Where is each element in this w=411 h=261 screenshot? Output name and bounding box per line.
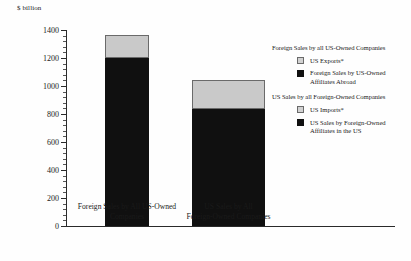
y-minor-tick [63,103,66,104]
y-minor-tick [63,69,66,70]
legend-group: Foreign Sales by all US-Owned CompaniesU… [272,44,411,86]
stacked-bar [105,35,149,226]
legend-item-label: US Exports* [310,57,344,66]
bar-segment-affiliate-sales [105,58,149,226]
y-tick-label: 1200 [43,54,59,63]
y-minor-tick [63,164,66,165]
y-minor-tick [63,192,66,193]
y-minor-tick [63,52,66,53]
y-tick-label: 200 [47,194,59,203]
legend-item[interactable]: US Sales by Foreign-Owned Affiliates in … [297,119,411,136]
legend-item[interactable]: Foreign Sales by US-Owned Affiliates Abr… [297,69,411,86]
legend-item-label: US Sales by Foreign-Owned Affiliates in … [310,119,386,136]
y-minor-tick [63,64,66,65]
legend-swatch-dark-icon [297,119,304,126]
y-minor-tick [63,153,66,154]
bar-segment-trade [192,80,265,109]
y-tick-label: 600 [47,138,59,147]
y-minor-tick [63,47,66,48]
legend-group: US Sales by all Foreign-Owned CompaniesU… [272,93,411,135]
y-tick-mark [61,30,66,31]
y-minor-tick [63,120,66,121]
y-tick-label: 800 [47,110,59,119]
legend-item[interactable]: US Exports* [297,57,411,66]
y-tick-mark [61,226,66,227]
y-minor-tick [63,97,66,98]
legend-item-label: Foreign Sales by US-Owned Affiliates Abr… [310,69,386,86]
y-minor-tick [63,131,66,132]
y-tick-mark [61,114,66,115]
y-tick-label: 400 [47,166,59,175]
x-axis-label: US Sales by All Foreign-Owned Companies [152,202,305,222]
y-tick-label: 1400 [43,26,59,35]
y-minor-tick [63,176,66,177]
y-tick-mark [61,170,66,171]
y-tick-mark [61,86,66,87]
y-axis-line [66,30,67,226]
legend-group-heading: US Sales by all Foreign-Owned Companies [272,93,411,102]
y-minor-tick [63,148,66,149]
y-minor-tick [63,36,66,37]
y-minor-tick [63,92,66,93]
y-tick-label: 1000 [43,82,59,91]
y-tick-mark [61,198,66,199]
y-tick-label: 0 [55,222,59,231]
y-tick-mark [61,142,66,143]
y-minor-tick [63,159,66,160]
y-minor-tick [63,41,66,42]
x-axis-line [66,226,395,227]
legend-swatch-light-icon [297,106,304,113]
y-minor-tick [63,108,66,109]
y-minor-tick [63,187,66,188]
legend-item[interactable]: US Imports* [297,106,411,115]
y-minor-tick [63,80,66,81]
y-minor-tick [63,125,66,126]
legend-group-heading: Foreign Sales by all US-Owned Companies [272,44,411,53]
chart-legend: Foreign Sales by all US-Owned CompaniesU… [272,44,411,143]
chart-figure: $ billion 0200400600800100012001400 Fore… [0,0,411,261]
y-tick-mark [61,58,66,59]
legend-item-label: US Imports* [310,106,344,115]
y-axis-title: $ billion [17,4,41,12]
legend-swatch-dark-icon [297,70,304,77]
bar-segment-trade [105,35,149,58]
y-minor-tick [63,181,66,182]
y-minor-tick [63,136,66,137]
legend-swatch-light-icon [297,57,304,64]
y-minor-tick [63,75,66,76]
